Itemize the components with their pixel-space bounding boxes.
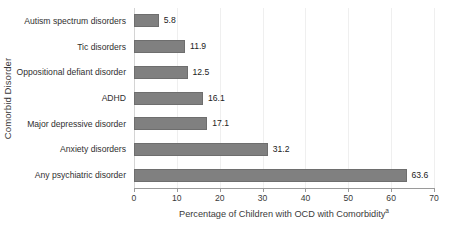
y-axis-title-text: Comorbid Disorder — [3, 57, 14, 138]
bar-value-label: 17.1 — [212, 117, 229, 130]
x-axis-title: Percentage of Children with OCD with Com… — [134, 207, 434, 219]
category-label: Tic disorders — [77, 41, 126, 53]
plot-area: 5.811.912.516.117.131.263.6 — [134, 8, 434, 188]
bar-value-label: 5.8 — [164, 14, 176, 27]
gridline-60 — [391, 8, 392, 188]
bar-value-label: 12.5 — [193, 66, 210, 79]
x-axis-tick-label: 70 — [419, 193, 449, 203]
bar — [134, 14, 159, 27]
bar-value-label: 63.6 — [412, 169, 429, 182]
x-axis-tick — [263, 188, 264, 192]
bar — [134, 143, 268, 156]
category-axis-labels: Autism spectrum disordersTic disordersOp… — [16, 8, 130, 188]
gridline-50 — [348, 8, 349, 188]
category-label: Anxiety disorders — [60, 143, 126, 155]
bar-chart: Comorbid Disorder Autism spectrum disord… — [0, 0, 449, 230]
bar — [134, 169, 407, 182]
y-axis-title: Comorbid Disorder — [0, 0, 16, 196]
x-axis-title-superscript: a — [385, 207, 389, 214]
gridline-70 — [434, 8, 435, 188]
bar — [134, 66, 188, 79]
x-axis-tick-label: 40 — [290, 193, 320, 203]
x-axis-tick — [305, 188, 306, 192]
category-label: Autism spectrum disorders — [24, 15, 126, 27]
x-axis-tick — [177, 188, 178, 192]
x-axis-line — [134, 188, 435, 189]
gridline-30 — [263, 8, 264, 188]
x-axis-tick-label: 0 — [119, 193, 149, 203]
x-axis-tick-label: 20 — [205, 193, 235, 203]
category-label: Major depressive disorder — [27, 118, 126, 130]
x-axis-tick-label: 60 — [376, 193, 406, 203]
bar-value-label: 11.9 — [190, 40, 206, 53]
x-axis-tick-label: 10 — [162, 193, 192, 203]
x-axis-tick-label: 50 — [333, 193, 363, 203]
x-axis-title-text: Percentage of Children with OCD with Com… — [179, 209, 385, 219]
category-label: Oppositional defiant disorder — [17, 66, 126, 78]
bar — [134, 40, 185, 53]
gridline-40 — [305, 8, 306, 188]
x-axis-tick — [220, 188, 221, 192]
bar — [134, 92, 203, 105]
x-axis-tick — [134, 188, 135, 192]
x-axis-tick-label: 30 — [248, 193, 278, 203]
x-axis-tick — [434, 188, 435, 192]
bar-value-label: 16.1 — [208, 92, 225, 105]
category-label: ADHD — [102, 92, 126, 104]
category-label: Any psychiatric disorder — [35, 169, 126, 181]
x-axis-tick — [391, 188, 392, 192]
bar — [134, 117, 207, 130]
x-axis-tick — [348, 188, 349, 192]
bar-value-label: 31.2 — [273, 143, 290, 156]
